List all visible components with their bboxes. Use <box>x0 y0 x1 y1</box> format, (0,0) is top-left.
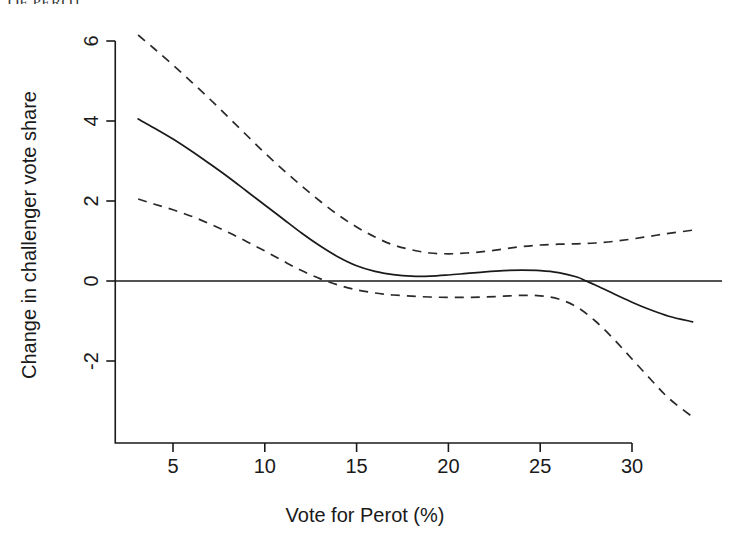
y-axis-title: Change in challenger vote share <box>18 91 40 379</box>
tick-label: 2 <box>80 195 102 206</box>
tick-label: 25 <box>529 455 551 477</box>
x-axis-title: Vote for Perot (%) <box>286 504 445 526</box>
tick-label: 0 <box>80 275 102 286</box>
lower-confidence-band-curve <box>138 199 692 417</box>
figure-canvas: -20246 51015202530 Vote for Perot (%) Ch… <box>0 0 730 544</box>
y-axis-ticks: -20246 <box>80 35 115 369</box>
y-axis-line <box>115 41 173 443</box>
tick-label: 4 <box>80 115 102 126</box>
tick-label: 15 <box>345 455 367 477</box>
tick-label: 6 <box>80 35 102 46</box>
axis-layer: -20246 51015202530 <box>80 35 643 477</box>
fitted-effect-curve <box>138 119 692 322</box>
upper-confidence-band-curve <box>138 35 692 254</box>
tick-label: 20 <box>437 455 459 477</box>
plot-layer <box>115 35 722 417</box>
x-axis-ticks: 51015202530 <box>167 443 643 477</box>
tick-label: 5 <box>167 455 178 477</box>
tick-label: -2 <box>80 352 102 370</box>
tick-label: 10 <box>254 455 276 477</box>
tick-label: 30 <box>621 455 643 477</box>
